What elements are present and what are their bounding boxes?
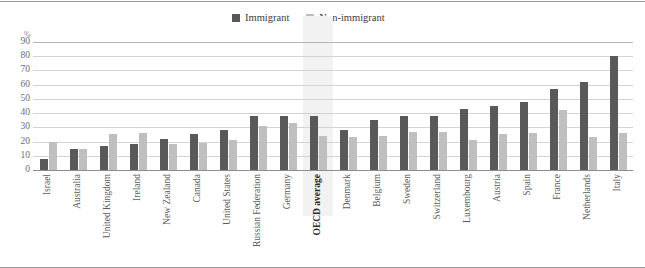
bar-group [243,42,273,170]
y-axis-tick-20: 20 [21,137,31,147]
bar-series-container [33,42,633,170]
bar-nonimmigrant [619,133,627,170]
x-axis-label: France [553,174,563,200]
legend-label-immigrant: Immigrant [245,13,289,24]
x-axis-label: Netherlands [583,174,593,220]
x-axis-label-cell: Luxembourg [453,172,483,264]
x-axis-label: Ireland [133,174,143,201]
x-axis-label-cell: Switzerland [423,172,453,264]
x-axis-label-cell: United States [213,172,243,264]
bar-group [423,42,453,170]
y-axis-tick-60: 60 [21,80,31,90]
bar-group [603,42,633,170]
bar-group [513,42,543,170]
x-axis-label-cell: France [543,172,573,264]
bar-nonimmigrant [109,134,117,170]
bar-nonimmigrant [289,123,297,170]
bar-group [63,42,93,170]
bar-nonimmigrant [169,144,177,170]
x-axis-label-cell: Australia [63,172,93,264]
bar-immigrant [610,56,618,170]
bar-group [183,42,213,170]
bar-immigrant [520,102,528,170]
bar-immigrant [190,134,198,170]
x-axis-label: Austria [493,174,503,202]
y-axis-tick-10: 10 [21,151,31,161]
x-axis-label: Spain [523,174,533,196]
x-axis-label-cell: Belgium [363,172,393,264]
x-axis-label: Denmark [343,174,353,209]
x-axis-label-cell: Russian Federation [243,172,273,264]
bar-group [303,42,333,170]
bar-nonimmigrant [79,149,87,170]
x-axis-label-cell: Canada [183,172,213,264]
bar-group [273,42,303,170]
x-axis-label: OECD average [313,174,323,235]
y-axis-tick-0: 0 [25,165,30,175]
bar-immigrant [100,146,108,170]
y-axis-tick-80: 80 [21,51,31,61]
bar-nonimmigrant [259,126,267,170]
bar-nonimmigrant [529,133,537,170]
bar-immigrant [550,89,558,170]
x-axis-label-cell: Austria [483,172,513,264]
bar-group [393,42,423,170]
bar-nonimmigrant [589,137,597,170]
bar-immigrant [40,159,48,170]
bar-nonimmigrant [439,132,447,170]
x-axis-label: Italy [613,174,623,191]
bar-group [153,42,183,170]
x-axis-label-cell: Ireland [123,172,153,264]
chart-page: Immigrant Non-immigrant % 01020304050607… [0,0,645,268]
bar-nonimmigrant [409,132,417,170]
gridline-0: 0 [33,170,633,171]
bar-group [213,42,243,170]
x-axis-label: Belgium [373,174,383,207]
bar-immigrant [400,116,408,170]
x-axis-label: Russian Federation [253,174,263,247]
bar-group [123,42,153,170]
x-axis-label: United States [223,174,233,225]
x-axis-label-cell: Denmark [333,172,363,264]
bar-immigrant [370,120,378,170]
bar-immigrant [160,139,168,170]
legend-swatch-immigrant [232,14,240,22]
y-axis-tick-40: 40 [21,108,31,118]
bar-group [483,42,513,170]
y-axis-tick-90: 90 [21,37,31,47]
x-axis-label: New Zealand [163,174,173,225]
bar-nonimmigrant [199,143,207,170]
bar-group [33,42,63,170]
bar-group [363,42,393,170]
x-axis-label-row: IsraelAustraliaUnited KingdomIrelandNew … [33,172,633,264]
y-axis-tick-70: 70 [21,66,31,76]
bar-immigrant [130,144,138,170]
bar-nonimmigrant [349,137,357,170]
bar-nonimmigrant [49,142,57,170]
bar-nonimmigrant [319,136,327,170]
x-axis-label-cell: Germany [273,172,303,264]
bar-immigrant [460,109,468,170]
bar-immigrant [220,130,228,170]
bar-immigrant [310,116,318,170]
top-divider [0,1,645,2]
y-axis-tick-30: 30 [21,123,31,133]
bar-group [93,42,123,170]
bar-immigrant [280,116,288,170]
x-axis-label-cell: United Kingdom [93,172,123,264]
bar-immigrant [490,106,498,170]
x-axis-label-cell: Sweden [393,172,423,264]
x-axis-label: Sweden [403,174,413,204]
bar-immigrant [580,82,588,170]
bar-group [573,42,603,170]
legend-item-immigrant: Immigrant [232,13,289,24]
x-axis-label-cell: Israel [33,172,63,264]
x-axis-label-cell: OECD average [303,172,333,264]
bar-nonimmigrant [229,140,237,170]
plot-area: 0102030405060708090 [33,42,633,170]
bar-nonimmigrant [559,110,567,170]
x-axis-label: Germany [283,174,293,209]
y-axis-tick-50: 50 [21,94,31,104]
bar-nonimmigrant [499,134,507,170]
bar-nonimmigrant [379,136,387,170]
